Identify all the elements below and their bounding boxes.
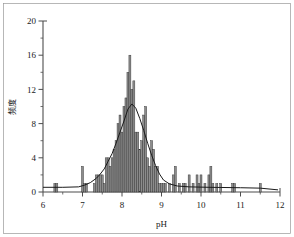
histogram-bar (182, 183, 184, 192)
histogram-bar (99, 175, 101, 192)
y-tick-label: 20 (27, 16, 37, 26)
x-tick-label: 7 (80, 200, 85, 210)
histogram-bar (161, 183, 163, 192)
histogram-bar (159, 183, 161, 192)
histogram-bar (208, 175, 210, 192)
histogram-bar (147, 158, 149, 192)
histogram-bar (121, 132, 123, 192)
histogram-bar (149, 166, 151, 192)
y-tick-label: 16 (27, 50, 37, 60)
histogram-bar (200, 175, 202, 192)
ph-histogram-chart: 6789101112048121620pH频度 (0, 0, 294, 237)
histogram-bar (153, 149, 155, 192)
histogram-bar (103, 183, 105, 192)
histogram-bar (210, 166, 212, 192)
histogram-bar (198, 183, 200, 192)
histogram-bar (184, 183, 186, 192)
histogram-bar (93, 183, 95, 192)
histogram-bar (117, 124, 119, 192)
y-axis-title: 频度 (7, 99, 17, 115)
histogram-bar (137, 132, 139, 192)
y-tick-label: 4 (32, 153, 37, 163)
histogram-bar (192, 183, 194, 192)
plot-area: 6789101112048121620pH频度 (4, 4, 291, 234)
x-tick-label: 10 (197, 200, 207, 210)
histogram-bar (109, 166, 111, 192)
histogram-bar (101, 175, 103, 192)
histogram-bar (133, 81, 135, 192)
x-tick-label: 9 (159, 200, 164, 210)
histogram-bar (155, 166, 157, 192)
x-tick-label: 11 (236, 200, 245, 210)
histogram-bar (151, 141, 153, 192)
histogram-bar (129, 55, 131, 192)
histogram-bar (119, 115, 121, 192)
histogram-bar (135, 132, 137, 192)
histogram-bar (111, 158, 113, 192)
y-tick-label: 8 (32, 119, 37, 129)
histogram-bar (174, 166, 176, 192)
y-tick-label: 12 (27, 85, 36, 95)
histogram-bar (162, 183, 164, 192)
density-curve (43, 104, 278, 190)
histogram-bar (113, 149, 115, 192)
histogram-bar (143, 115, 145, 192)
figure-border (4, 4, 291, 234)
y-tick-label: 0 (32, 187, 37, 197)
histogram-bar (164, 183, 166, 192)
histogram-bar (196, 175, 198, 192)
x-tick-label: 12 (276, 200, 285, 210)
histogram-bar (188, 175, 190, 192)
chart-canvas: 6789101112048121620pH频度 (0, 0, 294, 237)
histogram-bar (178, 183, 180, 192)
histogram-bar (145, 107, 147, 193)
x-axis-title: pH (156, 219, 168, 229)
histogram-bar (168, 183, 170, 192)
histogram-bar (115, 141, 117, 192)
x-tick-label: 6 (41, 200, 46, 210)
x-tick-label: 8 (120, 200, 125, 210)
histogram-bar (139, 149, 141, 192)
histogram-bar (82, 166, 84, 192)
histogram-bar (127, 72, 129, 192)
histogram-bar (141, 141, 143, 192)
histogram-bar (172, 175, 174, 192)
